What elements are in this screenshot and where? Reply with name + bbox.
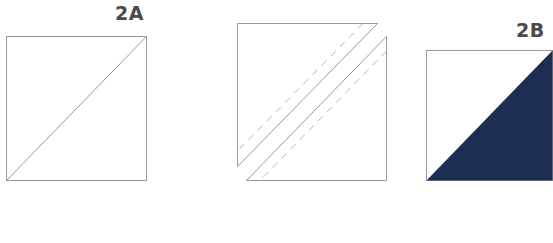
upper-triangle-cut-line [238, 24, 378, 167]
lower-triangle-cut-line [247, 37, 387, 181]
upper-seam-dashed-line [238, 24, 364, 152]
figure-2a [7, 37, 147, 181]
figure-cut-square [238, 24, 387, 181]
lower-seam-dashed-line [260, 51, 387, 181]
figure-2b [427, 51, 553, 181]
